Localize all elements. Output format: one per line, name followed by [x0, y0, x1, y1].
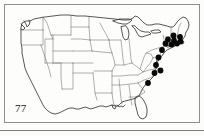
- border-ky-tn: [112, 75, 138, 76]
- border-nm-tx: [62, 63, 73, 89]
- border-ca-nv-east: [41, 45, 51, 77]
- border-sd-ne: [71, 39, 90, 40]
- border-tx-ok-ar-la: [93, 73, 97, 100]
- plate-frame: 77: [4, 4, 200, 123]
- border-in-oh: [129, 39, 132, 63]
- great-lakes-michigan: [121, 26, 129, 40]
- border-mn-wi: [100, 23, 109, 40]
- border-va-wv: [143, 58, 153, 72]
- occurrence-dot: [156, 55, 162, 61]
- border-wv-oh-pa: [140, 53, 153, 69]
- border-wy-id-ut: [45, 35, 53, 63]
- occurrence-dot: [174, 41, 180, 47]
- border-ia-mo: [92, 51, 112, 53]
- border-ga-sc: [138, 83, 145, 96]
- border-la-ms: [112, 93, 114, 105]
- occurrence-dot: [153, 62, 159, 68]
- us-national-outline: [21, 15, 189, 114]
- occurrence-dot: [171, 33, 177, 39]
- occurrence-dot: [169, 42, 175, 48]
- national-outline-group: [21, 15, 189, 119]
- border-nv-id-ut: [41, 30, 43, 45]
- bottom-rule-divider: [0, 130, 204, 131]
- occurrence-dot: [158, 68, 164, 74]
- distribution-map: [5, 5, 201, 124]
- occurrence-dot: [163, 41, 169, 47]
- border-tn-ga-al: [112, 83, 138, 85]
- great-lakes-ontario: [151, 30, 161, 33]
- border-al-ga: [129, 85, 132, 105]
- great-lakes-huron-erie: [132, 26, 151, 37]
- florida-peninsula: [135, 96, 147, 119]
- border-ia-il: [109, 40, 112, 53]
- border-az-nm: [61, 63, 62, 89]
- border-ne-ia-mo: [90, 40, 92, 51]
- border-mo-il-ky: [112, 53, 115, 71]
- border-id-mt: [43, 17, 53, 39]
- occurrence-dot: [159, 47, 165, 53]
- plate-number-label: 77: [15, 103, 27, 114]
- border-il-in: [121, 40, 124, 65]
- occurrence-dot: [145, 80, 151, 86]
- border-ms-al: [119, 79, 122, 104]
- border-sd-mn-ia: [89, 27, 90, 40]
- figure-root: 77: [0, 0, 204, 136]
- occurrence-dot: [152, 70, 158, 76]
